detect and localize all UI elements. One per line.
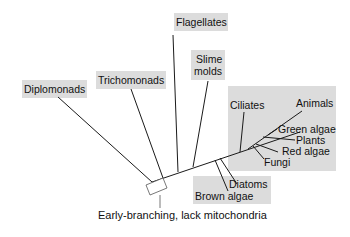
label-diatoms: Diatoms — [229, 178, 268, 190]
fungi-branch — [253, 146, 264, 159]
label-ciliates: Ciliates — [230, 99, 264, 111]
tree-branches — [0, 0, 350, 237]
flagellates-branch — [173, 35, 178, 172]
label-molds: molds — [194, 65, 222, 77]
brown-algae-branch — [215, 160, 228, 191]
early-branching-annotation: Early-branching, lack mitochondria — [98, 209, 267, 221]
ciliates-branch — [240, 112, 244, 152]
label-trichomonads: Trichomonads — [98, 74, 164, 86]
diplomonads-branch — [58, 97, 152, 182]
label-animals: Animals — [296, 97, 333, 109]
early-branching-bracket — [146, 178, 167, 195]
label-slime: Slime — [196, 53, 222, 65]
red-algae-branch — [256, 144, 278, 152]
label-fungi: Fungi — [264, 156, 290, 168]
trichomonads-branch — [131, 89, 163, 178]
label-diplomonads: Diplomonads — [24, 83, 85, 95]
label-brown-algae: Brown algae — [195, 190, 253, 202]
green-algae-branch — [268, 129, 277, 135]
label-flagellates: Flagellates — [176, 16, 227, 28]
slime-molds-branch — [193, 81, 208, 167]
